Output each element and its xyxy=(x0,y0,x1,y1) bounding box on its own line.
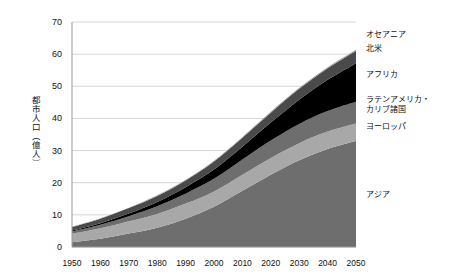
legend-label-1: 北米 xyxy=(366,44,382,54)
x-tick-label: 2050 xyxy=(339,258,373,268)
y-tick-label: 10 xyxy=(38,210,62,220)
legend-label-0: オセアニア xyxy=(366,30,406,40)
area-series-group xyxy=(72,50,356,247)
plot-area xyxy=(0,0,449,275)
stacked-area-chart: 都市人口（億人） 010203040506070 195019601970198… xyxy=(0,0,449,275)
y-tick-label: 60 xyxy=(38,49,62,59)
y-tick-label: 40 xyxy=(38,113,62,123)
y-tick-label: 50 xyxy=(38,81,62,91)
y-tick-label: 20 xyxy=(38,178,62,188)
legend-label-5: アジア xyxy=(366,190,390,200)
legend-label-3: ラテンアメリカ・ カリブ諸国 xyxy=(366,95,430,115)
y-tick-label: 30 xyxy=(38,146,62,156)
legend-label-2: アフリカ xyxy=(366,70,398,80)
y-tick-label: 0 xyxy=(38,242,62,252)
legend-label-4: ヨーロッパ xyxy=(366,122,406,132)
y-tick-label: 70 xyxy=(38,17,62,27)
y-axis-tick-labels: 010203040506070 xyxy=(36,0,62,275)
